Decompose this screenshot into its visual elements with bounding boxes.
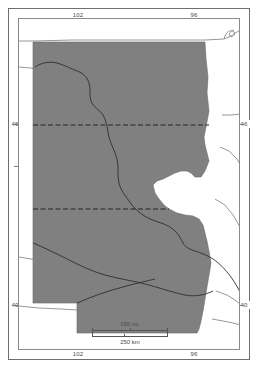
map-graphic (19, 19, 240, 350)
scale-bar-cap-right (167, 328, 168, 337)
scale-bar-tick-mi-mid (130, 328, 131, 331)
scale-bar-tick-km-mid (124, 334, 125, 337)
scale-bar-kilometers-line (92, 336, 168, 337)
scale-bar-cap-left (92, 328, 93, 337)
map-figure: 102 96 102 96 46 40 46 40 (0, 0, 258, 369)
longitude-label-bottom-96: 96 (184, 350, 204, 358)
longitude-label-bottom-102: 102 (68, 350, 88, 358)
map-neatline (18, 18, 240, 350)
scale-bar: 150 mi. 250 km (86, 320, 174, 346)
scale-bar-miles-label: 150 mi. (86, 320, 174, 328)
shaded-region (33, 42, 211, 333)
scale-bar-kilometers-label: 250 km (86, 338, 174, 346)
